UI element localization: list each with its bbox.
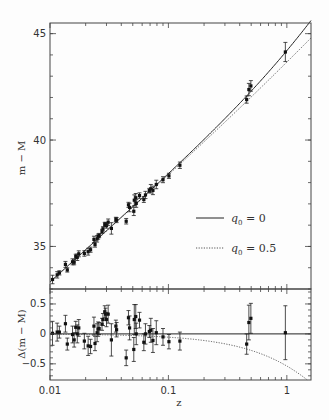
y-tick-label: −0.5 bbox=[22, 358, 46, 369]
top-panel: 354045 q0 = 0q0 = 0.5 bbox=[33, 21, 311, 289]
point-marker bbox=[58, 271, 61, 274]
point-marker bbox=[73, 338, 76, 341]
data-point bbox=[57, 271, 61, 275]
point-marker bbox=[155, 331, 158, 334]
point-marker bbox=[110, 227, 113, 230]
point-marker bbox=[64, 322, 67, 325]
point-marker bbox=[125, 356, 128, 359]
residual-point bbox=[63, 315, 67, 332]
point-marker bbox=[101, 318, 104, 321]
residual-point bbox=[178, 332, 182, 350]
point-marker bbox=[142, 341, 145, 344]
residual-point bbox=[82, 333, 86, 349]
y-tick-label: 40 bbox=[33, 135, 46, 146]
point-marker bbox=[245, 342, 248, 345]
point-marker bbox=[64, 263, 67, 266]
point-marker bbox=[66, 268, 69, 271]
point-marker bbox=[167, 340, 170, 343]
point-marker bbox=[89, 345, 92, 348]
point-marker bbox=[93, 342, 96, 345]
point-marker bbox=[107, 221, 110, 224]
point-marker bbox=[135, 332, 138, 335]
residual-point bbox=[245, 334, 249, 354]
point-marker bbox=[128, 206, 131, 209]
residual-point bbox=[138, 312, 142, 328]
residual-point bbox=[92, 317, 96, 335]
residual-point bbox=[154, 321, 158, 345]
point-marker bbox=[144, 332, 147, 335]
residual-points bbox=[51, 303, 288, 365]
point-marker bbox=[151, 189, 154, 192]
point-marker bbox=[144, 193, 147, 196]
residual-point bbox=[109, 324, 113, 356]
point-marker bbox=[284, 50, 287, 53]
residual-point bbox=[65, 338, 69, 350]
residual-point bbox=[283, 306, 287, 360]
residual-point bbox=[132, 337, 136, 361]
point-marker bbox=[134, 315, 137, 318]
residual-point bbox=[134, 323, 138, 345]
residual-point bbox=[93, 336, 97, 350]
point-marker bbox=[92, 325, 95, 328]
data-point bbox=[101, 227, 105, 231]
hubble-diagram-chart: 354045 q0 = 0q0 = 0.5 −0.500.50.010.11 m… bbox=[0, 0, 329, 420]
point-marker bbox=[77, 326, 80, 329]
point-marker bbox=[74, 326, 77, 329]
point-marker bbox=[128, 326, 131, 329]
point-marker bbox=[161, 178, 164, 181]
point-marker bbox=[138, 194, 141, 197]
point-marker bbox=[125, 220, 128, 223]
data-point bbox=[65, 268, 69, 272]
residual-point bbox=[57, 326, 61, 338]
x-tick-label: 0.1 bbox=[160, 385, 176, 396]
point-marker bbox=[66, 342, 69, 345]
point-marker bbox=[284, 331, 287, 334]
point-marker bbox=[132, 210, 135, 213]
residual-point bbox=[89, 339, 93, 353]
legend: q0 = 0q0 = 0.5 bbox=[196, 212, 276, 257]
residual-point bbox=[151, 329, 155, 353]
residual-point bbox=[51, 321, 55, 345]
data-point bbox=[138, 193, 142, 199]
point-marker bbox=[132, 348, 135, 351]
point-marker bbox=[51, 278, 54, 281]
residual-point bbox=[167, 335, 171, 349]
data-point bbox=[124, 218, 128, 224]
point-marker bbox=[98, 234, 101, 237]
data-point bbox=[283, 42, 287, 61]
point-marker bbox=[58, 331, 61, 334]
point-marker bbox=[77, 252, 80, 255]
point-marker bbox=[247, 88, 250, 91]
point-marker bbox=[249, 317, 252, 320]
point-marker bbox=[115, 218, 118, 221]
point-marker bbox=[105, 318, 108, 321]
point-marker bbox=[107, 313, 110, 316]
y-axis-label-bottom: Δ(m − M) bbox=[16, 309, 27, 359]
point-marker bbox=[93, 243, 96, 246]
residual-point bbox=[161, 329, 165, 346]
y-tick-label: 45 bbox=[33, 28, 46, 39]
point-marker bbox=[71, 333, 74, 336]
data-point bbox=[132, 207, 136, 216]
point-marker bbox=[83, 252, 86, 255]
data-point bbox=[97, 233, 101, 237]
point-marker bbox=[167, 174, 170, 177]
y-axis-label-top: m − M bbox=[16, 141, 27, 175]
legend-label-0: q0 = 0 bbox=[231, 212, 266, 227]
x-tick-label: 1 bbox=[284, 385, 290, 396]
x-tick-label: 0.01 bbox=[39, 385, 61, 396]
point-marker bbox=[155, 183, 158, 186]
point-marker bbox=[98, 327, 101, 330]
point-marker bbox=[151, 339, 154, 342]
point-marker bbox=[110, 338, 113, 341]
point-marker bbox=[247, 321, 250, 324]
point-marker bbox=[51, 332, 54, 335]
point-marker bbox=[115, 328, 118, 331]
point-marker bbox=[73, 261, 76, 264]
point-marker bbox=[83, 339, 86, 342]
point-marker bbox=[114, 325, 117, 328]
point-marker bbox=[245, 98, 248, 101]
y-tick-label: 0 bbox=[40, 328, 46, 339]
y-tick-label: 0.5 bbox=[30, 298, 46, 309]
residual-point bbox=[149, 318, 153, 342]
